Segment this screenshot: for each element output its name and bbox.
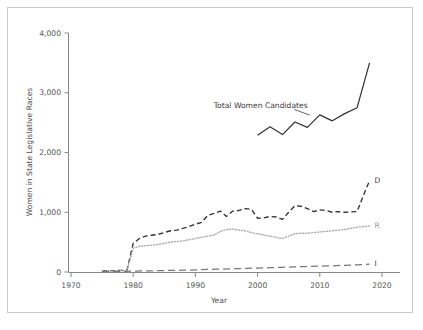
x-axis-tick-label: 1980: [124, 281, 143, 290]
annotation-total-women-candidates: Total Women Candidates: [213, 101, 308, 110]
chart-figure: 01,0002,0003,0004,000 Women in State Leg…: [0, 0, 423, 330]
x-axis-tick-label: 1970: [61, 281, 80, 290]
y-axis-tick-label: 2,000: [39, 148, 61, 157]
x-axis-tick-label: 1990: [186, 281, 205, 290]
y-axis-tick-label: 4,000: [39, 29, 61, 38]
x-axis-title: Year: [210, 296, 228, 305]
y-axis-tick-label: 3,000: [39, 88, 61, 97]
series-label-d: D: [375, 176, 381, 185]
x-axis-tick-label: 2020: [372, 281, 391, 290]
x-axis-tick-label: 2000: [248, 281, 267, 290]
y-axis-title: Women in State Legislative Races: [25, 88, 34, 217]
y-axis-tick-label: 0: [56, 268, 61, 277]
series-label-r: R: [375, 221, 381, 230]
series-label-i: I: [375, 259, 377, 268]
line-chart: 01,0002,0003,0004,000 Women in State Leg…: [0, 0, 423, 330]
y-axis-tick-label: 1,000: [39, 208, 61, 217]
x-axis-tick-label: 2010: [310, 281, 329, 290]
